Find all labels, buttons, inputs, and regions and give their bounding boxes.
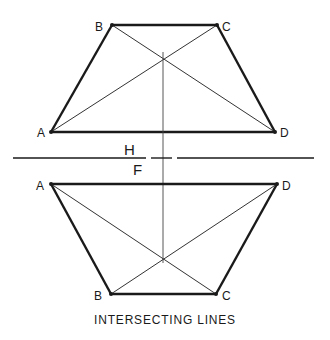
top-edge-cd bbox=[217, 25, 275, 132]
front-label-c: C bbox=[222, 289, 231, 303]
top-point-a bbox=[49, 130, 53, 134]
top-diagonal-ac bbox=[51, 25, 217, 132]
fold-label-h: H bbox=[124, 141, 135, 158]
top-edge-ab bbox=[51, 25, 112, 132]
intersecting-lines-diagram: A B C D H F A B C D INTERSECTING LINES bbox=[0, 0, 330, 340]
top-label-a: A bbox=[37, 126, 45, 140]
front-diagonal-ac bbox=[51, 184, 216, 294]
top-point-c bbox=[215, 23, 219, 27]
front-point-b bbox=[109, 292, 113, 296]
top-diagonal-bd bbox=[112, 25, 275, 132]
top-point-d bbox=[273, 130, 277, 134]
top-point-b bbox=[110, 23, 114, 27]
front-label-a: A bbox=[36, 179, 44, 193]
front-label-b: B bbox=[94, 289, 102, 303]
top-label-c: C bbox=[222, 20, 231, 34]
top-label-d: D bbox=[280, 126, 289, 140]
top-label-b: B bbox=[95, 20, 103, 34]
front-edge-cd bbox=[216, 184, 277, 294]
diagram-title: INTERSECTING LINES bbox=[94, 313, 236, 327]
front-point-c bbox=[214, 292, 218, 296]
front-label-d: D bbox=[282, 179, 291, 193]
fold-line: H F bbox=[13, 141, 314, 178]
front-point-d bbox=[275, 182, 279, 186]
fold-label-f: F bbox=[133, 161, 142, 178]
front-diagonal-bd bbox=[111, 184, 277, 294]
front-view: A B C D bbox=[36, 179, 291, 303]
front-edge-ab bbox=[51, 184, 111, 294]
front-point-a bbox=[49, 182, 53, 186]
